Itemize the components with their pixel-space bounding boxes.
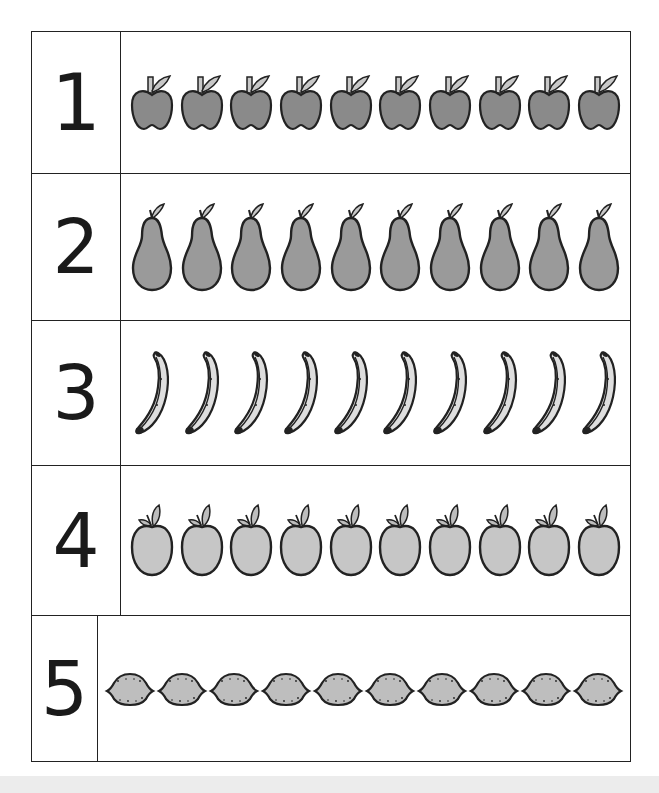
banana-icon [132,349,172,437]
row-4: 4 [32,466,630,616]
apple-icon [129,73,175,133]
lemon-icon [208,671,260,707]
pear-icon [378,202,422,292]
fruit-group [121,174,630,320]
apple-icon [377,73,423,133]
pear-icon [478,202,522,292]
round-apple-icon [377,503,423,579]
banana-icon [331,349,371,437]
fruit-group [121,466,630,615]
lemon-icon [572,671,624,707]
pear-icon [577,202,621,292]
pear-icon [329,202,373,292]
number-label: 4 [32,466,121,615]
apple-icon [179,73,225,133]
apple-icon [328,73,374,133]
round-apple-icon [477,503,523,579]
banana-icon [480,349,520,437]
pear-icon [130,202,174,292]
lemon-icon [364,671,416,707]
pear-icon [279,202,323,292]
apple-icon [526,73,572,133]
counting-worksheet: 1 [31,31,631,762]
banana-icon [579,349,619,437]
banana-icon [430,349,470,437]
banana-icon [231,349,271,437]
round-apple-icon [129,503,175,579]
lemon-icon [520,671,572,707]
pear-icon [229,202,273,292]
bottom-strip [0,776,659,793]
row-3: 3 [32,321,630,466]
banana-icon [281,349,321,437]
apple-icon [477,73,523,133]
round-apple-icon [427,503,473,579]
number-label: 3 [32,321,121,465]
round-apple-icon [526,503,572,579]
apple-icon [228,73,274,133]
apple-icon [576,73,622,133]
lemon-icon [260,671,312,707]
row-1: 1 [32,32,630,174]
fruit-group [121,32,630,173]
pear-icon [180,202,224,292]
banana-icon [380,349,420,437]
lemon-icon [156,671,208,707]
fruit-group [121,321,630,465]
banana-icon [529,349,569,437]
lemon-icon [416,671,468,707]
round-apple-icon [328,503,374,579]
apple-icon [278,73,324,133]
lemon-icon [468,671,520,707]
round-apple-icon [228,503,274,579]
number-label: 2 [32,174,121,320]
lemon-icon [312,671,364,707]
apple-icon [427,73,473,133]
round-apple-icon [576,503,622,579]
banana-icon [182,349,222,437]
pear-icon [428,202,472,292]
lemon-icon [104,671,156,707]
round-apple-icon [179,503,225,579]
number-label: 1 [32,32,121,173]
fruit-group [98,616,630,761]
pear-icon [527,202,571,292]
row-5: 5 [32,616,630,761]
number-label: 5 [32,616,98,761]
round-apple-icon [278,503,324,579]
row-2: 2 [32,174,630,321]
